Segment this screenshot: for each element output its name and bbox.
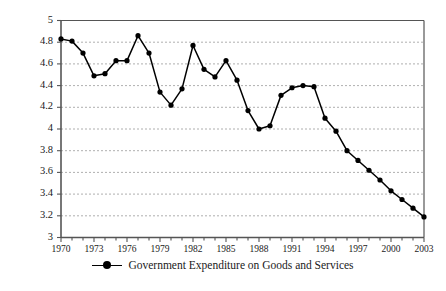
x-tick-label: 1988 (242, 244, 276, 254)
data-point-marker (399, 197, 404, 202)
x-tick-label: 2003 (407, 244, 441, 254)
data-point-marker (157, 90, 162, 95)
data-point-marker (223, 58, 228, 63)
data-point-marker (311, 84, 316, 89)
data-point-marker (333, 129, 338, 134)
y-tick-label: 3 (29, 231, 53, 242)
data-point-marker (69, 39, 74, 44)
line-with-dot-marker-icon (92, 260, 122, 270)
data-point-marker (212, 74, 217, 79)
y-tick-label: 5 (29, 14, 53, 25)
data-point-marker (355, 158, 360, 163)
x-tick-label: 1979 (143, 244, 177, 254)
data-point-marker (388, 188, 393, 193)
legend-entry-label: Government Expenditure on Goods and Serv… (128, 259, 353, 271)
data-point-marker (102, 71, 107, 76)
y-tick-label: 4.2 (29, 100, 53, 111)
y-tick-label: 3.6 (29, 165, 53, 176)
x-tick-label: 2000 (374, 244, 408, 254)
y-tick-label: 3.2 (29, 209, 53, 220)
y-tick-label: 3.4 (29, 187, 53, 198)
x-tick-label: 1982 (176, 244, 210, 254)
data-point-marker (190, 43, 195, 48)
data-point-marker (168, 103, 173, 108)
x-tick-label: 1991 (275, 244, 309, 254)
x-tick-label: 1973 (77, 244, 111, 254)
data-point-marker (245, 108, 250, 113)
data-point-marker (234, 78, 239, 83)
y-tick-label: 4.8 (29, 35, 53, 46)
x-tick-label: 1976 (110, 244, 144, 254)
x-tick-label: 1997 (341, 244, 375, 254)
data-point-marker (289, 85, 294, 90)
data-point-marker (377, 177, 382, 182)
data-point-marker (146, 50, 151, 55)
data-point-marker (135, 33, 140, 38)
x-tick-label: 1994 (308, 244, 342, 254)
y-tick-label: 4 (29, 122, 53, 133)
data-point-marker (91, 73, 96, 78)
data-point-marker (80, 50, 85, 55)
data-point-marker (366, 168, 371, 173)
data-point-marker (124, 58, 129, 63)
data-point-marker (300, 83, 305, 88)
data-point-marker (179, 86, 184, 91)
data-point-marker (256, 126, 261, 131)
data-point-marker (278, 93, 283, 98)
data-point-marker (344, 148, 349, 153)
y-tick-label: 3.8 (29, 144, 53, 155)
data-point-marker (322, 116, 327, 121)
x-tick-label: 1970 (44, 244, 78, 254)
y-tick-label: 4.4 (29, 79, 53, 90)
chart-container: Percent of GDP 54.84.64.44.243.83.63.43.… (0, 0, 446, 291)
data-point-marker (58, 36, 63, 41)
data-point-marker (421, 214, 426, 219)
y-tick-label: 4.6 (29, 57, 53, 68)
data-point-marker (410, 206, 415, 211)
data-point-marker (267, 123, 272, 128)
data-point-marker (201, 67, 206, 72)
chart-legend: Government Expenditure on Goods and Serv… (0, 259, 446, 271)
x-tick-label: 1985 (209, 244, 243, 254)
data-point-marker (113, 58, 118, 63)
